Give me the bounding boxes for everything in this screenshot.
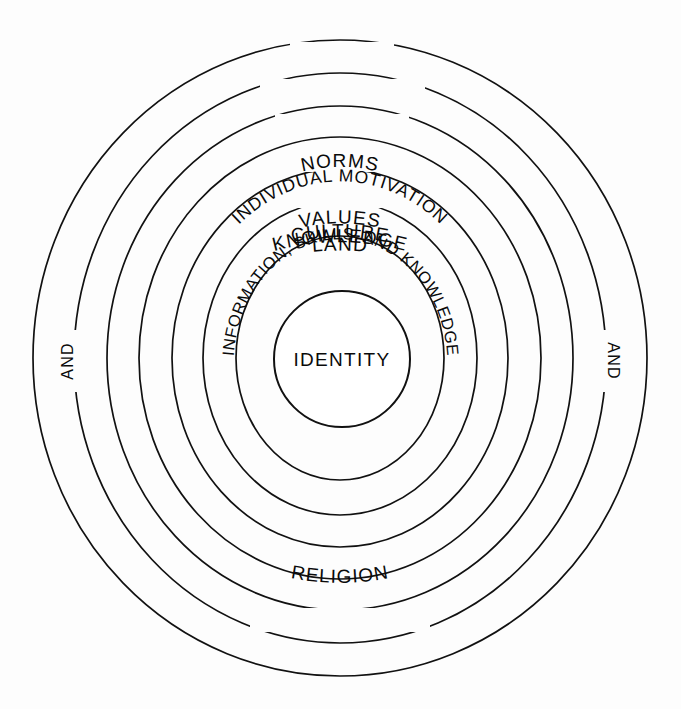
rings-svg: LAND KNOWLEDGE CULTURE VALUES NORMS INDI…: [0, 0, 681, 709]
identity-label: IDENTITY: [294, 349, 391, 370]
side-label-and-right: AND: [605, 342, 622, 379]
mask-land: [290, 42, 394, 64]
mask-knowledge: [260, 79, 425, 102]
concentric-circles-diagram: LAND KNOWLEDGE CULTURE VALUES NORMS INDI…: [0, 0, 681, 709]
mask-religion: [250, 608, 430, 632]
side-label-and-left: AND: [59, 342, 76, 379]
mask-culture: [275, 114, 409, 136]
ring-label-religion: RELIGION: [290, 561, 390, 587]
